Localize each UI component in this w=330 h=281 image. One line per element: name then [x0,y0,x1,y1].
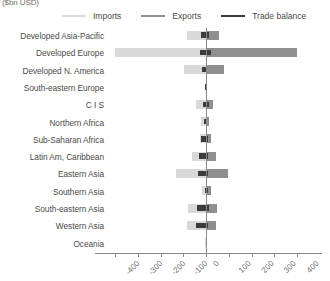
bar-exports [206,65,224,74]
row-bars [0,80,330,97]
units-caption: ($bn USD) [2,0,39,7]
chart-legend: Imports Exports Trade balance [62,11,326,21]
x-axis-tick [206,253,207,257]
chart-row: Eastern Asia [0,166,330,183]
chart-row: Oceania [0,236,330,253]
row-bars [0,132,330,149]
x-axis-tick [161,253,162,257]
x-axis-tick [115,253,116,257]
row-bars [0,45,330,62]
legend-item-exports: Exports [141,11,201,21]
bar-trade-balance [201,32,209,37]
row-bars [0,149,330,166]
chart-row: Developed Asia-Pacific [0,28,330,45]
x-axis-tick-label: -100 [192,259,210,277]
x-axis-tick [138,253,139,257]
row-bars [0,201,330,218]
x-axis-tick [229,253,230,257]
legend-swatch-exports [141,15,165,18]
row-bars [0,166,330,183]
chart-row: Western Asia [0,218,330,235]
legend-label-exports: Exports [172,11,201,21]
plot-area: Developed Asia-PacificDeveloped EuropeDe… [0,28,330,253]
row-bars [0,63,330,80]
chart-row: South-eastern Europe [0,80,330,97]
x-axis-tick-label: 300 [282,259,298,275]
zero-axis-line [206,28,207,256]
legend-item-imports: Imports [62,11,121,21]
x-axis-tick [252,253,253,257]
legend-label-trade-balance: Trade balance [252,11,306,21]
x-axis-tick [297,253,298,257]
bar-exports [206,169,228,178]
chart-row: Southern Asia [0,184,330,201]
row-bars [0,184,330,201]
chart-row: Developed Europe [0,45,330,62]
row-bars [0,236,330,253]
x-axis-tick [274,253,275,257]
bar-exports [206,48,297,57]
chart-row: Northern Africa [0,115,330,132]
x-axis-tick-label: -400 [124,259,142,277]
chart-row: South-eastern Asia [0,201,330,218]
chart-row: Latin Am, Caribbean [0,149,330,166]
x-axis-tick [183,253,184,257]
legend-swatch-trade-balance [221,15,245,18]
x-axis-tick-label: 0 [211,259,221,269]
legend-item-trade-balance: Trade balance [221,11,306,21]
x-axis-tick-label: 400 [305,259,321,275]
chart-row: C I S [0,97,330,114]
row-bars [0,115,330,132]
legend-label-imports: Imports [93,11,121,21]
row-bars [0,218,330,235]
bar-imports [115,48,206,57]
x-axis-tick-label: -300 [146,259,164,277]
x-axis-tick-label: -200 [169,259,187,277]
legend-swatch-imports [62,15,86,18]
row-bars [0,97,330,114]
row-bars [0,28,330,45]
trade-bar-chart: ($bn USD) Imports Exports Trade balance … [0,0,330,281]
bar-rows: Developed Asia-PacificDeveloped EuropeDe… [0,28,330,253]
chart-row: Sub-Saharan Africa [0,132,330,149]
x-axis-tick-label: 200 [259,259,275,275]
chart-row: Developed N. America [0,63,330,80]
x-axis-line [95,253,322,254]
x-axis-tick-label: 100 [237,259,253,275]
